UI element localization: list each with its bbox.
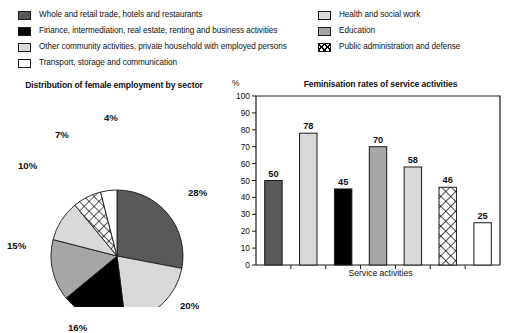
legend-item: Finance, intermediation, real estate, re…: [18, 24, 318, 38]
y-axis-tick-label: 100: [236, 91, 250, 101]
y-axis-tick-label: 30: [241, 209, 251, 219]
pie-value-label: 7%: [55, 129, 69, 140]
pie-slice-group: [51, 190, 183, 307]
bar: [300, 133, 317, 265]
legend-swatch-icon: [18, 43, 31, 52]
legend-item: Transport, storage and communication: [18, 56, 318, 70]
bar-value-label: 45: [338, 177, 348, 187]
legend-swatch-icon: [18, 27, 31, 36]
legend-item: Health and social work: [318, 8, 513, 22]
y-axis-tick-label: 50: [241, 176, 251, 186]
legend-column-left: Whole and retail trade, hotels and resta…: [18, 8, 318, 72]
y-axis-tick-label: 20: [241, 226, 251, 236]
bar-group: 50784570584625: [265, 121, 492, 265]
legend-item-label: Whole and retail trade, hotels and resta…: [39, 10, 202, 20]
pie-value-label: 20%: [180, 300, 199, 311]
bar-value-label: 25: [477, 211, 487, 221]
pie-value-label: 15%: [7, 240, 26, 251]
y-axis-tick-label: 90: [241, 108, 251, 118]
bar-chart-canvas: 0102030405060708090100 50784570584625: [228, 72, 513, 272]
legend-item: Other community activities, private hous…: [18, 40, 318, 54]
x-axis-label: Service activities: [248, 268, 513, 278]
pie-value-label: 10%: [18, 160, 37, 171]
legend-item: Whole and retail trade, hotels and resta…: [18, 8, 318, 22]
legend-item: Education: [318, 24, 513, 38]
legend-item-label: Public administration and defense: [339, 42, 460, 52]
y-axis-tick-label: 70: [241, 142, 251, 152]
legend-swatch-icon: [318, 11, 331, 20]
pie-slice: [117, 190, 183, 268]
bar: [265, 181, 282, 266]
legend-item: Public administration and defense: [318, 40, 513, 54]
legend-swatch-icon: [18, 11, 31, 20]
bar: [404, 167, 421, 265]
chart-legend: Whole and retail trade, hotels and resta…: [0, 0, 513, 72]
pie-chart-panel: Distribution of female employment by sec…: [0, 72, 228, 307]
pie-value-label: 28%: [188, 187, 207, 198]
legend-swatch-icon: [318, 27, 331, 36]
bar: [439, 187, 456, 265]
legend-column-right: Health and social work Education Public …: [318, 8, 513, 56]
legend-item-label: Health and social work: [339, 10, 420, 20]
pie-value-label: 16%: [68, 322, 87, 333]
bar: [474, 223, 491, 265]
y-axis-tick-label: 40: [241, 192, 251, 202]
y-axis-tick-label: 10: [241, 243, 251, 253]
bar-chart-panel: % Feminisation rates of service activiti…: [228, 72, 513, 307]
bar-value-label: 50: [268, 169, 278, 179]
bar-value-label: 58: [408, 155, 418, 165]
bar-value-label: 46: [443, 175, 453, 185]
legend-item-label: Education: [339, 26, 375, 36]
legend-item-label: Finance, intermediation, real estate, re…: [39, 26, 277, 36]
legend-item-label: Transport, storage and communication: [39, 58, 177, 68]
y-axis-tick-label: 60: [241, 159, 251, 169]
legend-swatch-icon: [18, 59, 31, 68]
bar-value-label: 78: [303, 121, 313, 131]
legend-item-label: Other community activities, private hous…: [39, 42, 287, 52]
legend-swatch-icon: [318, 43, 331, 52]
y-axis-tick-label: 80: [241, 125, 251, 135]
pie-value-label: 4%: [104, 112, 118, 123]
bar: [369, 147, 386, 265]
bar: [334, 189, 351, 265]
bar-value-label: 70: [373, 135, 383, 145]
